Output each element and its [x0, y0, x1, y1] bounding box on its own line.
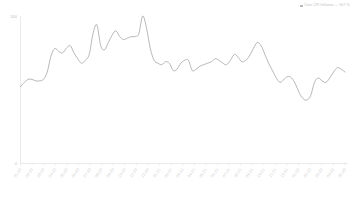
x-axis-tick-label: 04-20: [47, 167, 57, 179]
x-axis-tick-label: 01-22: [291, 167, 301, 179]
y-axis-tick-label-top: 100: [10, 14, 17, 19]
x-axis-label-group: 01-2002-2003-2004-2005-2006-2007-2008-20…: [13, 167, 348, 179]
x-axis-tick-label: 02-22: [302, 167, 312, 179]
x-axis-tick-label: 08-20: [94, 167, 104, 179]
x-axis-tick-label: 07-21: [221, 167, 231, 179]
x-axis-tick-label: 05-20: [59, 167, 69, 179]
data-series-line: [21, 16, 346, 100]
x-axis-tick-label: 01-20: [13, 167, 23, 179]
x-axis-tick-label: 04-21: [186, 167, 196, 179]
x-axis-tick-label: 06-20: [71, 167, 81, 179]
x-axis-tick-label: 03-21: [175, 167, 185, 179]
line-chart-container: Core CPI Inflation — YoY % 100 0 01-2002…: [0, 0, 354, 199]
x-axis-tick-label: 12-21: [279, 167, 289, 179]
legend-series-label: Core CPI Inflation — YoY %: [304, 3, 350, 7]
x-axis-tick-label: 11-21: [268, 167, 278, 179]
x-axis-tick-label: 08-21: [233, 167, 243, 179]
x-axis-tick-label: 11-20: [129, 167, 139, 179]
legend-square-marker-icon: [300, 5, 302, 7]
x-axis-tick-label: 07-20: [82, 167, 92, 179]
x-axis-tick-label: 10-20: [117, 167, 127, 179]
x-axis-tick-label: 06-21: [210, 167, 220, 179]
chart-plot-area: 100 0 01-2002-2003-2004-2005-2006-2007-2…: [0, 0, 354, 199]
x-axis-tick-label: 09-21: [244, 167, 254, 179]
chart-legend: Core CPI Inflation — YoY %: [300, 4, 350, 8]
x-axis-tick-label: 03-20: [36, 167, 46, 179]
x-axis-tick-label: 10-21: [256, 167, 266, 179]
x-axis-tick-label: 05-21: [198, 167, 208, 179]
x-axis-tick-label: 02-20: [24, 167, 34, 179]
x-axis-tick-label: 05-22: [337, 167, 347, 179]
x-axis-tick-label: 02-21: [163, 167, 173, 179]
x-axis-tick-label: 04-22: [325, 167, 335, 179]
y-axis-tick-label-bottom: 0: [15, 161, 18, 166]
x-axis-tick-label: 12-20: [140, 167, 150, 179]
x-axis-tick-label: 01-21: [152, 167, 162, 179]
x-axis-tick-label: 03-22: [314, 167, 324, 179]
x-axis-tick-label: 09-20: [105, 167, 115, 179]
